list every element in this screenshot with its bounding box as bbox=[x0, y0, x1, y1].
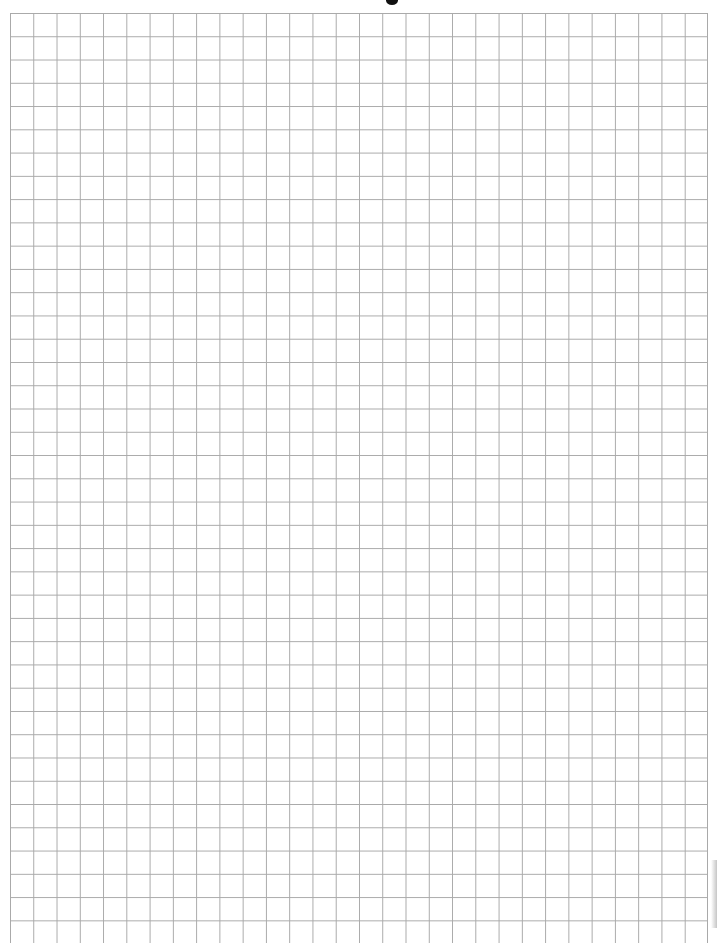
scan-edge-shadow bbox=[711, 860, 717, 928]
binding-hole-mark bbox=[386, 0, 398, 5]
grid-lines bbox=[10, 13, 708, 943]
